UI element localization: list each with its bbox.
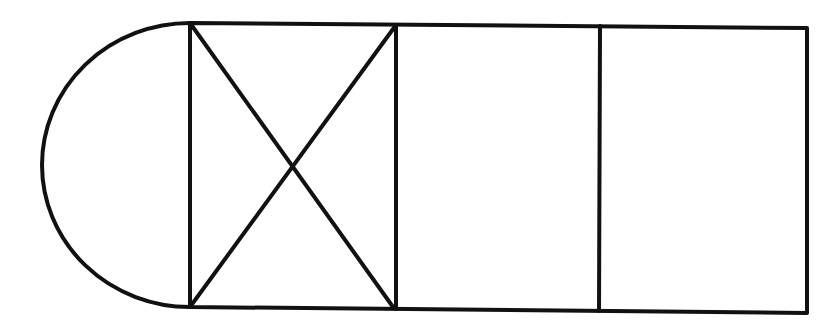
semicircle	[42, 23, 190, 307]
divider-2	[599, 26, 600, 311]
diagram-canvas	[0, 0, 840, 333]
outer-rectangle	[190, 23, 807, 313]
